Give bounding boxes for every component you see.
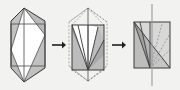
diagram-figure [0,0,180,90]
diagram-canvas [0,0,180,90]
panel-1-hexagon [11,8,45,82]
